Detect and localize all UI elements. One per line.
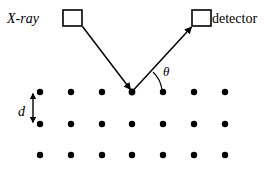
xray-source-box (63, 10, 82, 26)
lattice-dot (37, 89, 43, 95)
lattice-dots (37, 89, 228, 159)
lattice-dot (191, 89, 197, 95)
lattice-dot (222, 121, 228, 127)
lattice-dot (191, 121, 197, 127)
incident-ray (83, 27, 131, 90)
detector-box (192, 10, 211, 26)
lattice-dot (160, 89, 166, 95)
lattice-dot (222, 152, 228, 158)
lattice-dot (37, 121, 43, 127)
xray-source-label: X-ray (7, 12, 39, 26)
bragg-diffraction-figure: X-ray detector θ d (0, 0, 279, 179)
detector-label: detector (212, 12, 257, 26)
lattice-dot (68, 121, 74, 127)
lattice-dot (68, 152, 74, 158)
lattice-dot (160, 121, 166, 127)
lattice-dot (99, 152, 105, 158)
lattice-dot (37, 152, 43, 158)
theta-label: θ (163, 65, 169, 78)
diagram-canvas (0, 0, 279, 179)
lattice-dot (99, 89, 105, 95)
lattice-dot (222, 89, 228, 95)
lattice-dot-vertex (129, 89, 136, 96)
diffracted-ray (134, 27, 192, 90)
lattice-dot (129, 152, 135, 158)
lattice-dot (191, 152, 197, 158)
lattice-dot (129, 121, 135, 127)
theta-angle-arc (153, 72, 162, 90)
lattice-dot (68, 89, 74, 95)
lattice-dot (160, 152, 166, 158)
lattice-dot (99, 121, 105, 127)
spacing-label: d (18, 105, 25, 119)
